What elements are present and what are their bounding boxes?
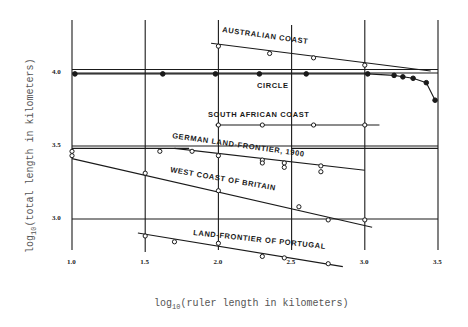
data-point [311, 56, 315, 60]
data-point [433, 98, 438, 103]
data-point [213, 72, 218, 77]
data-point [172, 240, 176, 244]
data-point [143, 234, 147, 238]
data-point [257, 72, 262, 77]
y-tick-label: 3.0 [52, 214, 61, 222]
data-point [70, 149, 74, 153]
fit-lines [72, 43, 435, 266]
data-point [216, 241, 220, 245]
grid-lines [72, 20, 438, 252]
series-label: WEST COAST OF BRITAIN [170, 165, 277, 192]
data-point [216, 189, 220, 193]
series-labels: AUSTRALIAN COASTCIRCLESOUTH AFRICAN COAS… [170, 25, 327, 251]
data-point [326, 218, 330, 222]
data-point [260, 161, 264, 165]
data-point [73, 72, 78, 77]
series-label: CIRCLE [257, 81, 289, 90]
data-point [363, 123, 367, 127]
x-axis-label: log10(ruler length in kilometers) [154, 298, 348, 311]
series-label: SOUTH AFRICAN COAST [208, 110, 310, 119]
x-tick-label: 3.5 [433, 258, 442, 266]
series-label: AUSTRALIAN COAST [222, 25, 309, 46]
data-point [216, 44, 220, 48]
data-point [190, 149, 194, 153]
data-point [311, 123, 315, 127]
data-point [424, 80, 429, 85]
fit-curve [75, 74, 435, 100]
x-tick-label: 2.5 [287, 258, 296, 266]
data-point [392, 73, 397, 78]
data-point [326, 262, 330, 266]
data-points [70, 44, 437, 266]
fit-line [211, 43, 431, 71]
data-point [304, 72, 309, 77]
series-label: GERMAN LAND-FRONTIER, 1900 [172, 131, 305, 158]
data-point [260, 254, 264, 258]
data-point [70, 154, 74, 158]
x-tick-label: 3.0 [360, 258, 369, 266]
y-tick-label: 3.5 [52, 141, 61, 149]
fractal-coastline-chart: AUSTRALIAN COASTCIRCLESOUTH AFRICAN COAS… [0, 0, 468, 327]
data-point [216, 123, 220, 127]
data-point [363, 63, 367, 67]
series-label: LAND-FRONTIER OF PORTUGAL [193, 228, 327, 251]
data-point [282, 165, 286, 169]
data-point [216, 154, 220, 158]
data-point [319, 164, 323, 168]
data-point [319, 170, 323, 174]
fit-line [72, 159, 372, 228]
data-point [363, 218, 367, 222]
y-tick-label: 4.0 [52, 68, 61, 76]
data-point [365, 72, 370, 77]
y-axis-label: log10(total length in kilometers) [25, 59, 38, 253]
x-tick-label: 1.5 [140, 258, 149, 266]
data-point [143, 171, 147, 175]
data-point [282, 161, 286, 165]
data-point [268, 51, 272, 55]
data-point [411, 76, 416, 81]
data-point [401, 75, 406, 80]
data-point [260, 123, 264, 127]
data-point [297, 205, 301, 209]
data-point [158, 149, 162, 153]
data-point [160, 72, 165, 77]
x-tick-label: 1.0 [67, 258, 76, 266]
x-tick-label: 2.0 [213, 258, 222, 266]
